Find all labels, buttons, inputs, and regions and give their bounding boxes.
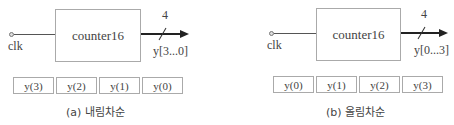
- caption-a: (a) 내림차순: [66, 103, 125, 119]
- counter-block: counter16: [316, 8, 401, 61]
- output-label: y[3...0]: [153, 44, 188, 59]
- clk-wire: [14, 34, 55, 35]
- bit-cell: y(3): [13, 77, 54, 94]
- counter-block: counter16: [55, 9, 141, 62]
- arrow-right-icon: [180, 30, 189, 38]
- clk-label: clk: [8, 39, 23, 54]
- bit-cell: y(1): [316, 76, 357, 93]
- bit-cell: y(2): [56, 77, 97, 94]
- bit-cell: y(3): [402, 76, 443, 93]
- bit-cell: y(1): [99, 77, 140, 94]
- bus-width-label: 4: [162, 8, 168, 23]
- clk-wire: [274, 33, 316, 34]
- clk-label: clk: [267, 38, 282, 53]
- caption-b: (b) 올림차순: [326, 103, 385, 119]
- output-label: y[0...3]: [414, 43, 449, 58]
- bit-cell: y(0): [142, 77, 183, 94]
- bit-cell: y(2): [359, 76, 400, 93]
- arrow-right-icon: [439, 29, 448, 37]
- bus-width-label: 4: [421, 7, 427, 22]
- bit-cell: y(0): [273, 76, 314, 93]
